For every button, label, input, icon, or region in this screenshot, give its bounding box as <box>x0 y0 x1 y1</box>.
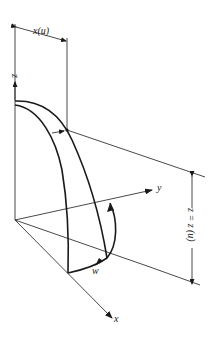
y-axis: y <box>15 182 162 220</box>
z-axis-label: z <box>10 73 21 78</box>
z-of-u-dimension: z = z (u) <box>185 176 198 284</box>
tangent-arrow <box>52 131 64 133</box>
point-marker <box>65 128 68 131</box>
x-axis-label: x <box>113 313 119 324</box>
x-of-u-dimension: x(u) <box>15 24 67 130</box>
radial-reference-line <box>15 220 150 267</box>
w-label: w <box>92 265 99 276</box>
inner-meridian-curve <box>15 105 68 273</box>
y-axis-line <box>15 190 152 220</box>
y-axis-label: y <box>156 182 162 193</box>
z-axis: z <box>10 73 21 220</box>
shell-geometry-diagram: x(u) z y x z = z (u) w <box>0 0 212 338</box>
parallel-circle-arc <box>68 203 116 273</box>
z-of-u-label: z = z (u) <box>185 207 197 242</box>
projection-line-bottom <box>150 267 200 285</box>
projection-line-top <box>67 130 205 177</box>
x-of-u-label: x(u) <box>32 25 50 37</box>
